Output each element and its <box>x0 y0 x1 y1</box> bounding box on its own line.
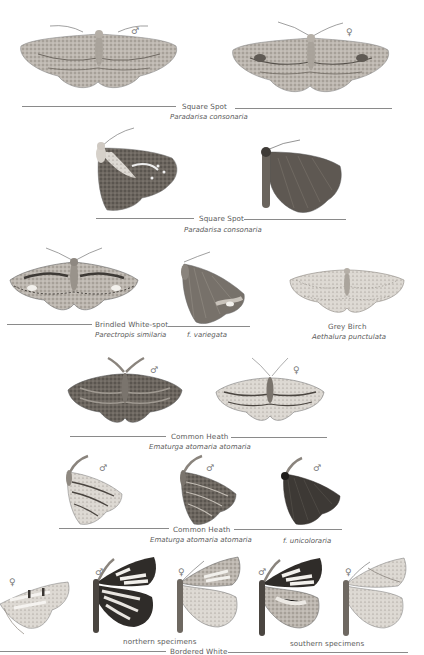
female-symbol: ♀ <box>346 28 353 37</box>
form-label: f. variegata <box>187 331 227 339</box>
scientific-name-label: Paradarisa consonaria <box>184 226 262 234</box>
divider-rule <box>96 218 194 219</box>
female-symbol: ♀ <box>345 568 352 577</box>
common-name-label: Bordered White <box>170 647 228 655</box>
male-symbol: ♂ <box>206 464 214 473</box>
scientific-name-label: Parectropis similaria <box>95 331 166 339</box>
male-symbol: ♂ <box>99 464 107 473</box>
divider-rule <box>244 219 346 220</box>
divider-rule <box>59 528 169 529</box>
divider-rule <box>228 652 408 653</box>
male-symbol: ♂ <box>95 568 103 577</box>
male-symbol: ♂ <box>131 27 139 36</box>
common-name-label: Grey Birch <box>328 322 367 331</box>
moth-illustration <box>8 246 140 316</box>
scientific-name-label: Aethalura punctulata <box>312 333 386 341</box>
divider-rule <box>235 108 392 109</box>
female-symbol: ♀ <box>293 366 300 375</box>
common-name-label: Common Heath <box>171 432 228 441</box>
moth-illustration <box>62 456 126 530</box>
divider-rule <box>231 437 327 438</box>
moth-illustration <box>18 20 180 95</box>
common-name-label: Square Spot <box>182 102 227 111</box>
moth-illustration <box>258 138 348 220</box>
divider-rule <box>7 324 92 325</box>
moth-illustration <box>214 358 326 426</box>
divider-rule <box>234 529 342 530</box>
region-label-northern: northern specimens <box>123 637 197 646</box>
moth-illustration <box>92 126 182 214</box>
moth-illustration <box>278 458 342 530</box>
male-symbol: ♂ <box>150 366 158 375</box>
form-label: f. unicoloraria <box>283 537 331 545</box>
divider-rule <box>70 436 166 437</box>
scientific-name-label: Ematurga atomaria atomaria <box>149 443 251 451</box>
moth-illustration <box>230 20 392 98</box>
divider-rule <box>0 651 166 652</box>
scientific-name-label: Ematurga atomaria atomaria <box>150 536 252 544</box>
divider-rule <box>168 326 250 327</box>
male-symbol: ♂ <box>313 464 321 473</box>
moth-illustration <box>288 262 406 318</box>
moth-illustration <box>66 358 184 428</box>
male-symbol: ♂ <box>258 568 266 577</box>
region-label-southern: southern specimens <box>290 639 364 648</box>
female-symbol: ♀ <box>9 578 16 587</box>
moth-illustration <box>176 252 250 328</box>
moth-illustration <box>256 556 328 638</box>
common-name-label: Common Heath <box>173 525 230 534</box>
common-name-label: Brindled White-spot <box>95 320 168 329</box>
divider-rule <box>22 106 176 107</box>
female-symbol: ♀ <box>178 568 185 577</box>
common-name-label: Square Spot <box>199 214 244 223</box>
scientific-name-label: Paradarisa consonaria <box>170 113 248 121</box>
